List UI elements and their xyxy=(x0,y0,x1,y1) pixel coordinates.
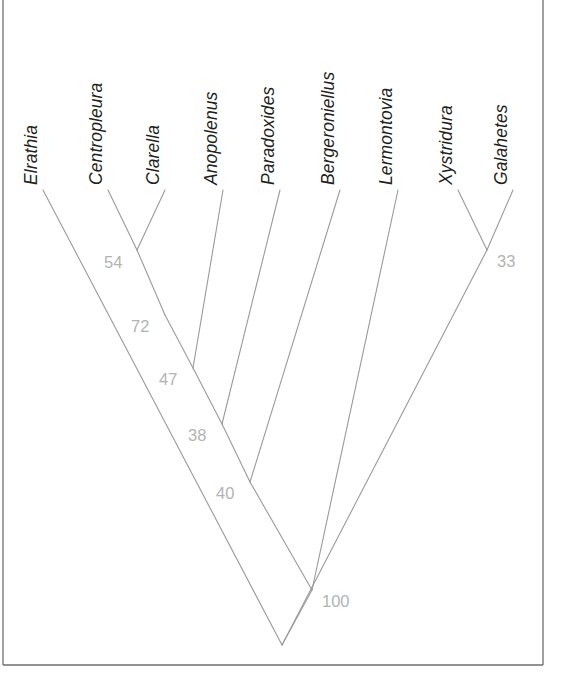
taxon-label-bergeroniellus: Bergeroniellus xyxy=(318,72,338,185)
branch-node72-to-node47 xyxy=(165,315,193,368)
taxon-label-centropleura: Centropleura xyxy=(86,82,106,185)
support-value-33: 33 xyxy=(497,252,515,270)
branch-node54-to-node72 xyxy=(137,250,165,315)
taxon-label-xystridura: Xystridura xyxy=(436,105,456,186)
branch-node100-to-root xyxy=(282,590,312,645)
branch-bergeroniellus xyxy=(250,190,340,482)
taxon-label-anopolenus: Anopolenus xyxy=(201,91,221,186)
branch-elrathia xyxy=(43,190,282,645)
branch-centropleura xyxy=(108,190,137,250)
taxon-labels: ElrathiaCentropleuraClarellaAnopolenusPa… xyxy=(21,72,511,186)
support-value-54: 54 xyxy=(104,253,122,271)
support-value-38: 38 xyxy=(188,426,206,444)
support-value-47: 47 xyxy=(159,370,177,388)
branch-node38-to-node40 xyxy=(222,424,250,482)
support-value-72: 72 xyxy=(131,317,149,335)
cladogram-canvas: ElrathiaCentropleuraClarellaAnopolenusPa… xyxy=(0,0,561,680)
taxon-label-galahetes: Galahetes xyxy=(491,104,511,185)
branch-xystridura xyxy=(458,190,487,250)
branch-clarella xyxy=(137,190,165,250)
branch-paradoxides xyxy=(222,190,280,424)
taxon-label-lermontovia: Lermontovia xyxy=(376,87,396,185)
branch-anopolenus xyxy=(193,190,223,368)
phylogenetic-tree-figure: ElrathiaCentropleuraClarellaAnopolenusPa… xyxy=(0,0,561,680)
support-values: 547247384010033 xyxy=(104,252,515,610)
branch-node40-to-node100 xyxy=(250,482,312,590)
taxon-label-clarella: Clarella xyxy=(143,125,163,185)
taxon-label-elrathia: Elrathia xyxy=(21,125,41,185)
branch-node33-to-root xyxy=(282,250,487,645)
taxon-label-paradoxides: Paradoxides xyxy=(258,86,278,185)
branch-galahetes xyxy=(487,190,513,250)
support-value-100: 100 xyxy=(322,592,350,610)
branch-lermontovia xyxy=(312,190,398,590)
support-value-40: 40 xyxy=(216,484,234,502)
branch-node47-to-node38 xyxy=(193,368,222,424)
